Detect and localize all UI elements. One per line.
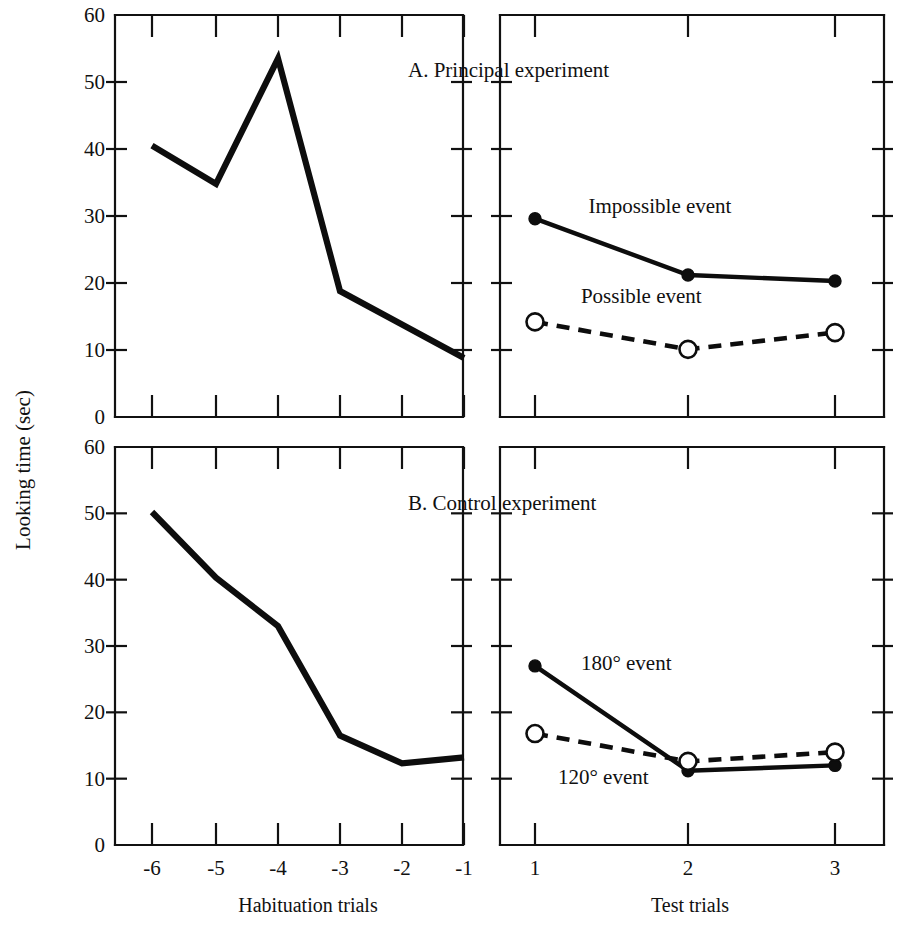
data-point-marker [829, 275, 841, 287]
looking-time-figure: Looking time (sec) 0102030405060 A. Prin… [0, 0, 898, 930]
data-point-marker [827, 324, 844, 341]
y-tick-label-50: 50 [84, 501, 105, 525]
y-tick-label-30: 30 [84, 204, 105, 228]
y-tick-label-60: 60 [84, 435, 105, 459]
panel-a-title: A. Principal experiment [408, 58, 609, 82]
data-point-marker [680, 753, 697, 770]
panel-a-data-lines [152, 59, 844, 358]
data-point-marker [827, 744, 844, 761]
data-point-marker [682, 269, 694, 281]
x-tick-label-habituation-5: -1 [455, 856, 473, 880]
panel-b-y-tick-labels: 0102030405060 [84, 435, 105, 857]
data-point-marker [529, 660, 541, 672]
panel-b-title: B. Control experiment [408, 491, 597, 515]
x-tick-label-habituation-0: -6 [143, 856, 161, 880]
panel-a-principal-experiment: 0102030405060 A. Principal experiment Im… [84, 3, 893, 429]
y-tick-label-50: 50 [84, 70, 105, 94]
habituation-trials-axis-title: Habituation trials [238, 894, 378, 916]
panel-b-data-lines [152, 512, 844, 777]
x-tick-label-test-1: 2 [683, 856, 694, 880]
x-tick-label-test-0: 1 [530, 856, 541, 880]
y-tick-label-20: 20 [84, 271, 105, 295]
y-tick-label-0: 0 [95, 405, 106, 429]
y-tick-label-0: 0 [95, 833, 106, 857]
x-tick-labels: -6-5-4-3-2-1123 [143, 856, 840, 880]
y-tick-label-60: 60 [84, 3, 105, 27]
x-tick-label-habituation-4: -2 [393, 856, 411, 880]
x-tick-label-test-2: 3 [830, 856, 841, 880]
panel-a-series-label-impossible-event: Impossible event [589, 194, 732, 218]
panel-a-series-label-possible-event: Possible event [581, 284, 702, 308]
y-tick-label-30: 30 [84, 634, 105, 658]
y-axis-title: Looking time (sec) [11, 390, 35, 550]
data-point-marker [680, 341, 697, 358]
panel-b-control-experiment: 0102030405060 -6-5-4-3-2-1123 B. Control… [84, 435, 893, 880]
y-tick-label-10: 10 [84, 338, 105, 362]
y-tick-label-10: 10 [84, 767, 105, 791]
series-line-1 [152, 512, 464, 763]
panel-a-y-tick-labels: 0102030405060 [84, 3, 105, 429]
data-point-marker [527, 313, 544, 330]
y-tick-label-40: 40 [84, 568, 105, 592]
y-tick-label-20: 20 [84, 700, 105, 724]
test-trials-axis-title: Test trials [651, 894, 729, 916]
panel-b-series-label-120-event: 120° event [558, 765, 649, 789]
panel-b-series-label-180-event: 180° event [581, 651, 672, 675]
x-tick-label-habituation-1: -5 [207, 856, 225, 880]
figure-root: Looking time (sec) 0102030405060 A. Prin… [0, 0, 898, 930]
data-point-marker [529, 213, 541, 225]
series-line-1 [152, 59, 464, 358]
data-point-marker [527, 725, 544, 742]
x-tick-label-habituation-3: -3 [331, 856, 349, 880]
x-tick-label-habituation-2: -4 [269, 856, 287, 880]
y-tick-label-40: 40 [84, 137, 105, 161]
